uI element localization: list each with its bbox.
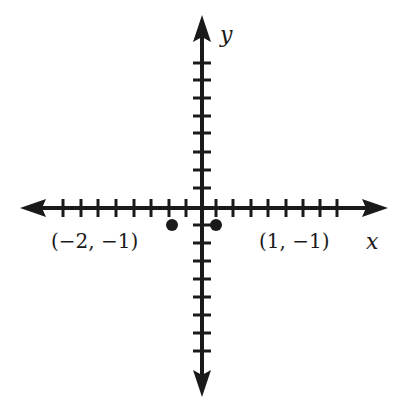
point-neg2-neg1 [166, 219, 178, 231]
y-axis-label: y [219, 22, 233, 47]
coordinate-plane: y x (−2, −1) (1, −1) [0, 0, 408, 418]
x-axis-label: x [366, 229, 379, 254]
point-1-neg1 [210, 219, 222, 231]
point-label-neg2-neg1: (−2, −1) [51, 229, 138, 253]
point-label-1-neg1: (1, −1) [259, 229, 330, 253]
